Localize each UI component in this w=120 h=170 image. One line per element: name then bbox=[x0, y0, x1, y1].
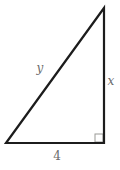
right-angle-icon bbox=[95, 134, 103, 142]
triangle-outline bbox=[6, 8, 104, 143]
vertical-leg-label: x bbox=[108, 75, 115, 87]
triangle-canvas bbox=[0, 0, 120, 170]
right-triangle-figure: y x 4 bbox=[0, 0, 120, 170]
hypotenuse-label: y bbox=[37, 62, 44, 74]
base-label: 4 bbox=[53, 150, 61, 162]
